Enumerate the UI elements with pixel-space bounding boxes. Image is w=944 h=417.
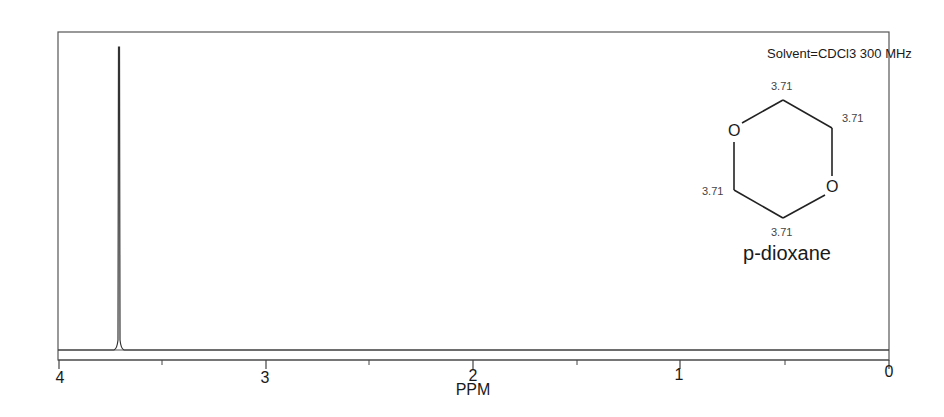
oxygen-atom-1: O (728, 122, 740, 140)
tick-label-3: 3 (261, 369, 270, 387)
nmr-spectrum-plot (0, 0, 944, 417)
x-axis-label: PPM (456, 381, 491, 399)
shift-label-top: 3.71 (771, 80, 792, 92)
shift-label-left: 3.71 (702, 185, 723, 197)
plot-frame (58, 32, 889, 360)
tick-label-1: 1 (675, 366, 684, 384)
shift-label-bottom: 3.71 (771, 226, 792, 238)
molecule-name: p-dioxane (743, 242, 831, 265)
solvent-label: Solvent=CDCl3 300 MHz (767, 46, 912, 61)
oxygen-atom-2: O (826, 178, 838, 196)
peak-3.71 (58, 47, 889, 350)
dioxane-structure (734, 100, 832, 218)
tick-label-4: 4 (56, 369, 65, 387)
shift-label-right: 3.71 (842, 112, 863, 124)
tick-label-0: 0 (885, 363, 894, 381)
